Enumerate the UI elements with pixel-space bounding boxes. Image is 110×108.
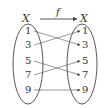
codomain-label: X: [79, 12, 89, 25]
function-arrow: f: [40, 6, 77, 19]
domain-element: 7: [25, 69, 31, 80]
codomain-element: 5: [82, 55, 88, 66]
function-mapping-diagram: X 1 3 5 7 9 X 1 3 5 7 9 f: [0, 0, 110, 108]
domain-element: 9: [25, 84, 31, 95]
function-label: f: [55, 6, 62, 17]
codomain-element: 3: [82, 39, 88, 50]
domain-element: 3: [25, 39, 31, 50]
domain-label: X: [21, 12, 31, 25]
codomain-element: 1: [82, 25, 88, 36]
mapping-arrows: [34, 31, 80, 90]
domain-element: 5: [25, 55, 31, 66]
domain-element: 1: [25, 25, 31, 36]
codomain-element: 7: [82, 69, 88, 80]
codomain-element: 9: [82, 84, 88, 95]
